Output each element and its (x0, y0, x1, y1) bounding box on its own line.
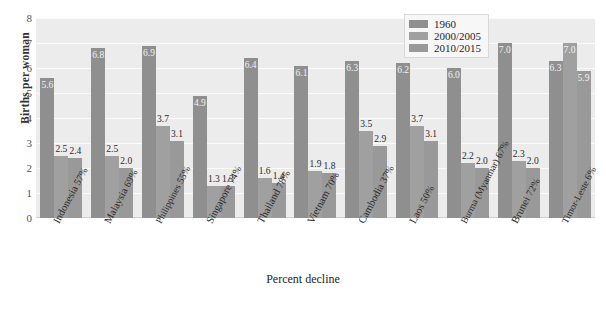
bar-value-label: 2.0 (527, 157, 539, 167)
bar-value-label: 1.9 (310, 160, 322, 170)
bar-value-label: 3.1 (171, 130, 183, 140)
bar-value-label: 6.8 (92, 51, 104, 61)
y-tick-label: 1 (18, 187, 32, 199)
y-tick-label: 2 (18, 162, 32, 174)
legend-item[interactable]: 2000/2005 (409, 30, 481, 42)
bar[interactable]: 6.2 (396, 63, 410, 218)
bar-value-label: 2.9 (374, 135, 386, 145)
bar-value-label: 6.0 (448, 71, 460, 81)
bar-value-label: 6.4 (245, 61, 257, 71)
y-tick-label: 7 (18, 37, 32, 49)
legend-label: 1960 (434, 18, 456, 30)
bar-value-label: 5.9 (578, 74, 590, 84)
legend-label: 2010/2015 (434, 42, 481, 54)
y-tick-label: 6 (18, 62, 32, 74)
bar[interactable]: 6.8 (91, 48, 105, 218)
bar[interactable]: 5.6 (40, 78, 54, 218)
legend-label: 2000/2005 (434, 30, 481, 42)
bar-value-label: 6.1 (296, 69, 308, 79)
bar-value-label: 3.7 (157, 115, 169, 125)
bar-value-label: 2.5 (55, 145, 67, 155)
bar[interactable]: 4.9 (193, 96, 207, 219)
bar-value-label: 6.3 (550, 64, 562, 74)
bar-value-label: 1.6 (259, 167, 271, 177)
y-axis-ticks: 876543210 (14, 0, 32, 316)
bar-value-label: 3.5 (360, 120, 372, 130)
bar-value-label: 5.6 (41, 81, 53, 91)
bar-value-label: 1.8 (324, 162, 336, 172)
legend-item[interactable]: 1960 (409, 18, 481, 30)
bar-value-label: 7.0 (499, 46, 511, 56)
y-tick-label: 5 (18, 87, 32, 99)
bar-value-label: 6.3 (346, 64, 358, 74)
bar-value-label: 1.3 (208, 175, 220, 185)
bar[interactable]: 7.0 (498, 43, 512, 218)
y-tick-label: 0 (18, 212, 32, 224)
bar-value-label: 4.9 (194, 99, 206, 109)
bar-value-label: 2.3 (513, 150, 525, 160)
y-tick-label: 8 (18, 12, 32, 24)
bar-value-label: 7.0 (564, 46, 576, 56)
y-tick-label: 4 (18, 112, 32, 124)
bar-value-label: 2.4 (69, 147, 81, 157)
bar[interactable]: 6.4 (244, 58, 258, 218)
legend-swatch (409, 44, 428, 52)
y-tick-label: 3 (18, 137, 32, 149)
legend: 19602000/20052010/2015 (404, 14, 489, 58)
bar-value-label: 2.5 (106, 145, 118, 155)
bar[interactable]: 6.9 (142, 46, 156, 219)
bar[interactable]: 6.0 (447, 68, 461, 218)
x-axis-title: Percent decline (0, 272, 606, 287)
legend-swatch (409, 20, 428, 28)
bar-value-label: 6.9 (143, 49, 155, 59)
bar[interactable]: 6.1 (294, 66, 308, 219)
bar-value-label: 3.7 (411, 115, 423, 125)
bar[interactable]: 6.3 (549, 61, 563, 219)
legend-swatch (409, 32, 428, 40)
bar-value-label: 3.1 (425, 130, 437, 140)
bar-value-label: 6.2 (397, 66, 409, 76)
bar[interactable]: 6.3 (345, 61, 359, 219)
fertility-bar-chart: Births per woman 876543210 5.62.52.46.82… (0, 0, 606, 316)
bar-value-label: 2.2 (462, 152, 474, 162)
bar-value-label: 2.0 (120, 157, 132, 167)
legend-item[interactable]: 2010/2015 (409, 42, 481, 54)
